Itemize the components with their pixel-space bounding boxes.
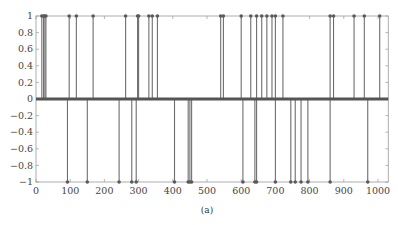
stem-marker [66,180,70,184]
stem-marker [293,180,297,184]
stem-marker [124,14,128,18]
stem-marker [255,180,259,184]
stem-marker [366,180,370,184]
stem-marker [328,180,332,184]
stem-marker [130,180,134,184]
stem-marker [137,14,141,18]
x-tick-label: 800 [301,185,319,196]
stem-marker [274,180,278,184]
stem-marker [328,14,332,18]
y-tick-label: −0.6 [10,143,33,154]
y-tick-label: −1 [19,176,33,187]
x-tick-label: 1000 [366,185,390,196]
stem-marker [222,14,226,18]
stem-marker [67,14,71,18]
stem-marker [239,14,243,18]
stem-marker [270,14,274,18]
y-tick-label: 0.2 [18,77,33,88]
stem-marker [241,180,245,184]
stem-marker [249,14,253,18]
stem-marker [260,14,264,18]
stem-marker [363,14,367,18]
stem-marker [289,180,293,184]
stem-marker [281,14,285,18]
x-tick-label: 400 [164,185,182,196]
x-tick-label: 900 [335,185,353,196]
y-tick-label: 0.8 [18,27,33,38]
stem-marker [173,180,177,184]
y-tick-label: 0.6 [18,43,33,54]
stem-marker [274,14,278,18]
x-tick-label: 100 [61,185,79,196]
y-tick-label: 1 [27,10,33,21]
stem-marker [255,14,259,18]
stem-marker [378,14,382,18]
stem-marker [147,14,151,18]
x-tick-label: 0 [33,185,39,196]
y-tick-label: −0.8 [10,160,33,171]
stem-chart: 10.80.60.40.20−0.2−0.4−0.6−0.8−1 0100200… [0,0,398,225]
figure-caption: (a) [201,205,213,215]
x-axis: 01002003004005006007008009001000 [33,16,390,196]
y-tick-label: −0.4 [10,126,33,137]
stem-marker [117,180,121,184]
x-tick-label: 200 [95,185,113,196]
x-tick-label: 500 [198,185,216,196]
stem-marker [265,14,269,18]
stem-marker [299,180,303,184]
stem-marker [134,180,138,184]
stem-marker [91,14,95,18]
y-tick-label: 0.4 [18,60,33,71]
stem-marker [75,14,79,18]
stem-marker [306,180,310,184]
stem-marker [86,180,90,184]
x-tick-label: 300 [130,185,148,196]
stem-marker [44,14,48,18]
stem-marker [156,14,160,18]
x-tick-label: 600 [232,185,250,196]
y-tick-label: −0.2 [10,110,33,121]
stem-marker [190,180,194,184]
stem-marker [352,14,356,18]
stem-marker [150,14,154,18]
y-tick-label: 0 [27,93,33,104]
stem-marker [332,14,336,18]
x-tick-label: 700 [266,185,284,196]
